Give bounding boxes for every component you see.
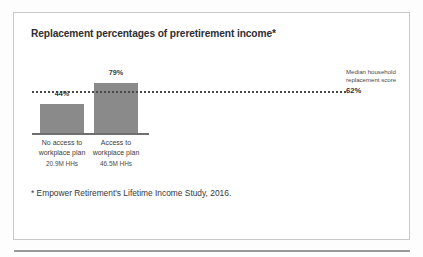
- bar-no-access: [40, 104, 84, 133]
- median-legend: Median household replacement score 62%: [346, 68, 408, 95]
- chart-card: Replacement percentages of preretirement…: [13, 12, 410, 240]
- median-legend-value: 62%: [346, 86, 408, 95]
- axis-baseline: [32, 133, 149, 135]
- median-legend-label: Median household replacement score: [346, 68, 408, 83]
- page-root: Replacement percentages of preretirement…: [0, 0, 423, 257]
- bottom-divider: [14, 250, 410, 252]
- category-label-line-1: Access to: [82, 138, 150, 148]
- chart-plot-area: 44% 79% No access to workplace plan Acce…: [14, 13, 411, 241]
- bar-value-no-access: 44%: [40, 89, 84, 98]
- bar-value-access: 79%: [94, 68, 138, 77]
- category-label-access: Access to workplace plan: [82, 138, 150, 157]
- category-label-line-2: workplace plan: [82, 148, 150, 158]
- category-sublabel-access: 46.5M HHs: [82, 160, 150, 167]
- chart-footnote: * Empower Retirement's Lifetime Income S…: [31, 188, 231, 198]
